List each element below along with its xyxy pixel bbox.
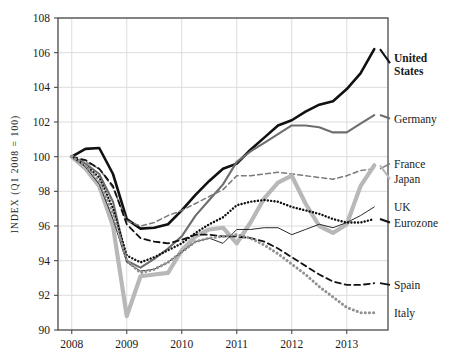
y-tick-label: 102 <box>33 116 51 128</box>
series-label-spain: Spain <box>394 279 420 292</box>
chart-container: 9092949698100102104106108 20082009201020… <box>0 0 454 358</box>
x-tick-label: 2008 <box>60 338 83 350</box>
series-label-italy: Italy <box>394 307 415 320</box>
y-tick-label: 106 <box>33 47 51 59</box>
y-tick-label: 98 <box>39 185 51 197</box>
series-label-uk: UK <box>394 201 411 213</box>
x-tick-label: 2013 <box>335 338 358 350</box>
y-tick-label: 108 <box>33 12 51 24</box>
y-tick-label: 92 <box>39 289 51 301</box>
x-tick-label: 2009 <box>115 338 138 350</box>
x-tick-label: 2011 <box>225 338 248 350</box>
y-axis-title-text: INDEX (Q1 2008 = 100) <box>10 115 21 234</box>
y-tick-label: 94 <box>39 255 51 267</box>
line-chart: 9092949698100102104106108 20082009201020… <box>0 0 454 358</box>
series-label-eurozone: Eurozone <box>394 217 438 229</box>
y-axis-title: INDEX (Q1 2008 = 100) <box>10 115 21 234</box>
series-label-germany: Germany <box>394 113 437 126</box>
y-tick-label: 104 <box>33 81 51 93</box>
series-label-united-states: UnitedStates <box>394 52 428 77</box>
series-label-japan: Japan <box>394 173 420 186</box>
series-label-france: France <box>394 158 425 170</box>
x-tick-label: 2012 <box>280 338 303 350</box>
y-tick-label: 90 <box>39 324 51 336</box>
y-tick-label: 96 <box>39 220 51 232</box>
y-tick-label: 100 <box>33 151 51 163</box>
x-tick-label: 2010 <box>170 338 193 350</box>
